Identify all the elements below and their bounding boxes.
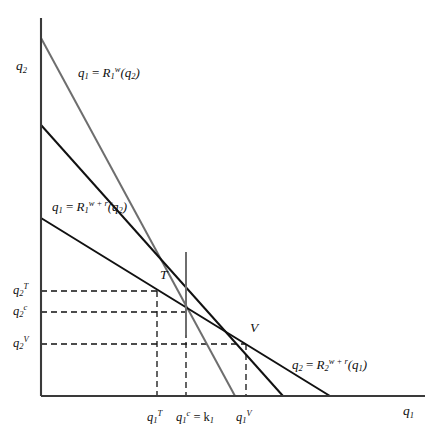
curve-r1-w bbox=[41, 38, 235, 396]
reaction-function-figure: q2 q1 q1 = R1w(q2) q1 = R1w + r(q2) q2 =… bbox=[0, 0, 436, 445]
x-tick-label-q1T: q1T bbox=[147, 409, 162, 425]
guide-lines-group bbox=[41, 291, 246, 396]
curve-label-r2-w-plus-r: q2 = R2w + r(q1) bbox=[292, 357, 367, 373]
curve-r1-w-plus-r bbox=[41, 125, 283, 396]
y-axis-label: q2 bbox=[16, 59, 27, 74]
y-tick-label-q2V: q2V bbox=[13, 335, 29, 351]
point-label-V: V bbox=[250, 321, 258, 335]
y-tick-label-q2c: q2c bbox=[13, 303, 27, 319]
figure-canvas bbox=[0, 0, 436, 445]
curve-label-r1-w-plus-r: q1 = R1w + r(q2) bbox=[52, 199, 127, 215]
curve-label-r1-w: q1 = R1w(q2) bbox=[78, 65, 140, 81]
y-tick-label-q2T: q2T bbox=[13, 282, 28, 298]
x-tick-label-q1V: q1V bbox=[236, 409, 252, 425]
point-label-T: T bbox=[160, 268, 168, 282]
x-axis-label: q1 bbox=[403, 404, 414, 419]
x-tick-label-q1c: q1c = k1 bbox=[176, 409, 214, 425]
